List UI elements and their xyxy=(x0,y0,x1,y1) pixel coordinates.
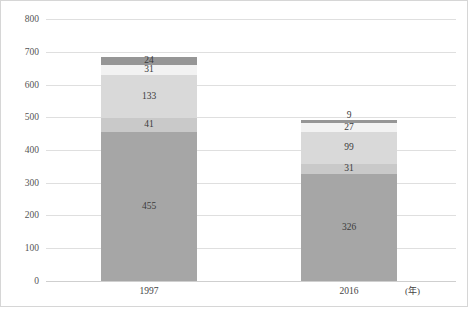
bar-2016-segment-2[interactable]: 31 xyxy=(301,164,397,174)
bar-1997-segment-2[interactable]: 41 xyxy=(101,118,197,132)
bar-2016-segment-4[interactable]: 27 xyxy=(301,123,397,132)
bar-2016-segment-3[interactable]: 99 xyxy=(301,132,397,164)
bar-1997-segment-2-label: 41 xyxy=(144,120,154,130)
gridline-0-baseline xyxy=(46,281,456,282)
bar-1997-segment-1[interactable]: 455 xyxy=(101,132,197,281)
y-axis-tick-500: 500 xyxy=(1,113,39,123)
bar-1997-segment-3[interactable]: 133 xyxy=(101,75,197,118)
y-axis-tick-700: 700 xyxy=(1,48,39,58)
bar-1997-segment-1-label: 455 xyxy=(142,202,156,212)
bar-2016-segment-4-label: 27 xyxy=(344,123,354,133)
x-axis-label-2016: 2016 xyxy=(301,287,397,297)
bar-1997-segment-5-label: 24 xyxy=(144,56,154,66)
bar-2016[interactable]: 326 31 99 27 9 xyxy=(301,1,397,281)
bar-2016-segment-2-label: 31 xyxy=(344,164,354,174)
y-axis-tick-0: 0 xyxy=(1,277,39,287)
y-axis-tick-300: 300 xyxy=(1,179,39,189)
bar-1997-segment-5[interactable]: 24 xyxy=(101,57,197,65)
y-axis-tick-800: 800 xyxy=(1,15,39,25)
y-axis-tick-400: 400 xyxy=(1,146,39,156)
bar-2016-segment-1-label: 326 xyxy=(342,223,356,233)
bar-1997-segment-3-label: 133 xyxy=(142,92,156,102)
y-axis-tick-200: 200 xyxy=(1,211,39,221)
bar-2016-segment-3-label: 99 xyxy=(344,143,354,153)
chart-container: 800 700 600 500 400 300 200 100 0 455 41… xyxy=(0,0,468,307)
y-axis-tick-100: 100 xyxy=(1,244,39,254)
y-axis-tick-600: 600 xyxy=(1,81,39,91)
plot-area: 800 700 600 500 400 300 200 100 0 455 41… xyxy=(1,1,467,306)
x-axis-unit-label: (年) xyxy=(405,287,420,296)
bar-2016-segment-5-label: 9 xyxy=(301,111,397,121)
bar-2016-segment-1[interactable]: 326 xyxy=(301,174,397,281)
x-axis-label-1997: 1997 xyxy=(101,287,197,297)
bar-1997-segment-4-label: 31 xyxy=(144,65,154,75)
bar-1997-segment-4[interactable]: 31 xyxy=(101,65,197,75)
bar-1997[interactable]: 455 41 133 31 24 xyxy=(101,1,197,281)
